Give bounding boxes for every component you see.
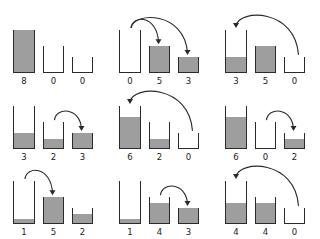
- pour-arrow-icon: [106, 151, 213, 229]
- step-panel: 620: [106, 76, 213, 154]
- pour-arrow-icon: [212, 151, 319, 229]
- step-panel: 053: [106, 0, 213, 78]
- jug-8: [13, 30, 35, 73]
- pour-arrow-icon: [212, 76, 319, 154]
- step-panel: 800: [0, 0, 107, 78]
- jug-3: [72, 57, 93, 73]
- step-panel: 152: [0, 151, 107, 229]
- step-panel: 350: [212, 0, 319, 78]
- jug-5: [43, 46, 64, 73]
- pour-arrow-icon: [106, 0, 213, 78]
- pour-arrow-icon: [0, 151, 107, 229]
- pour-arrow-icon: [106, 76, 213, 154]
- step-panel: 602: [212, 76, 319, 154]
- step-panel: 143: [106, 151, 213, 229]
- step-panel: 440: [212, 151, 319, 229]
- pour-arrow-icon: [212, 0, 319, 78]
- pour-arrow-icon: [0, 76, 107, 154]
- water-jug-puzzle-diagram: 800053350323620602152143440: [0, 0, 320, 239]
- step-panel: 323: [0, 76, 107, 154]
- water-fill: [14, 30, 34, 72]
